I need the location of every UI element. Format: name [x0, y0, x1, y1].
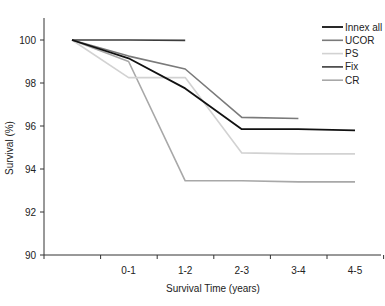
- legend-item: PS: [322, 48, 359, 59]
- legend-label: UCOR: [345, 35, 374, 46]
- series-line-cr: [72, 40, 355, 182]
- y-tick-label: 96: [25, 121, 37, 132]
- legend-item: CR: [322, 75, 359, 86]
- y-tick-label: 90: [25, 250, 37, 261]
- legend-label: PS: [345, 48, 359, 59]
- y-tick-label: 94: [25, 164, 37, 175]
- legend-item: UCOR: [322, 35, 374, 46]
- y-tick-label: 100: [19, 35, 36, 46]
- x-tick-label: 1-2: [178, 265, 193, 276]
- y-axis-title: Survival (%): [4, 121, 15, 175]
- x-tick-label: 2-3: [235, 265, 250, 276]
- series-line-innex-all: [72, 40, 355, 130]
- x-tick-label: 0-1: [121, 265, 136, 276]
- y-tick-label: 98: [25, 78, 37, 89]
- axes: 90929496981000-11-22-33-44-5: [19, 18, 383, 276]
- x-axis-title: Survival Time (years): [166, 283, 260, 294]
- series-line-ps: [72, 40, 355, 154]
- y-tick-label: 92: [25, 207, 37, 218]
- survival-line-chart: 90929496981000-11-22-33-44-5 Innex allUC…: [0, 0, 385, 306]
- x-tick-label: 3-4: [291, 265, 306, 276]
- legend-label: CR: [345, 75, 359, 86]
- plot-lines: [72, 40, 355, 182]
- legend-label: Innex all: [345, 22, 382, 33]
- chart-canvas: 90929496981000-11-22-33-44-5 Innex allUC…: [0, 0, 385, 306]
- x-tick-label: 4-5: [348, 265, 363, 276]
- legend: Innex allUCORPSFixCR: [322, 22, 382, 86]
- legend-item: Fix: [322, 61, 358, 72]
- legend-label: Fix: [345, 61, 358, 72]
- legend-item: Innex all: [322, 22, 382, 33]
